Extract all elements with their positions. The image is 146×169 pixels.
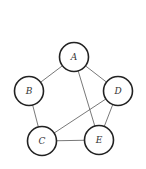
node-label: E: [95, 135, 103, 145]
nodes-group: ABCDE: [15, 43, 133, 156]
node-a: A: [60, 43, 89, 72]
node-label: B: [25, 86, 33, 96]
node-label: A: [70, 52, 78, 62]
node-e: E: [85, 126, 114, 155]
node-b: B: [15, 77, 44, 106]
node-label: D: [113, 86, 121, 96]
node-d: D: [104, 77, 133, 106]
node-c: C: [28, 127, 57, 156]
node-label: C: [39, 136, 46, 146]
graph-diagram: ABCDE: [0, 0, 146, 169]
